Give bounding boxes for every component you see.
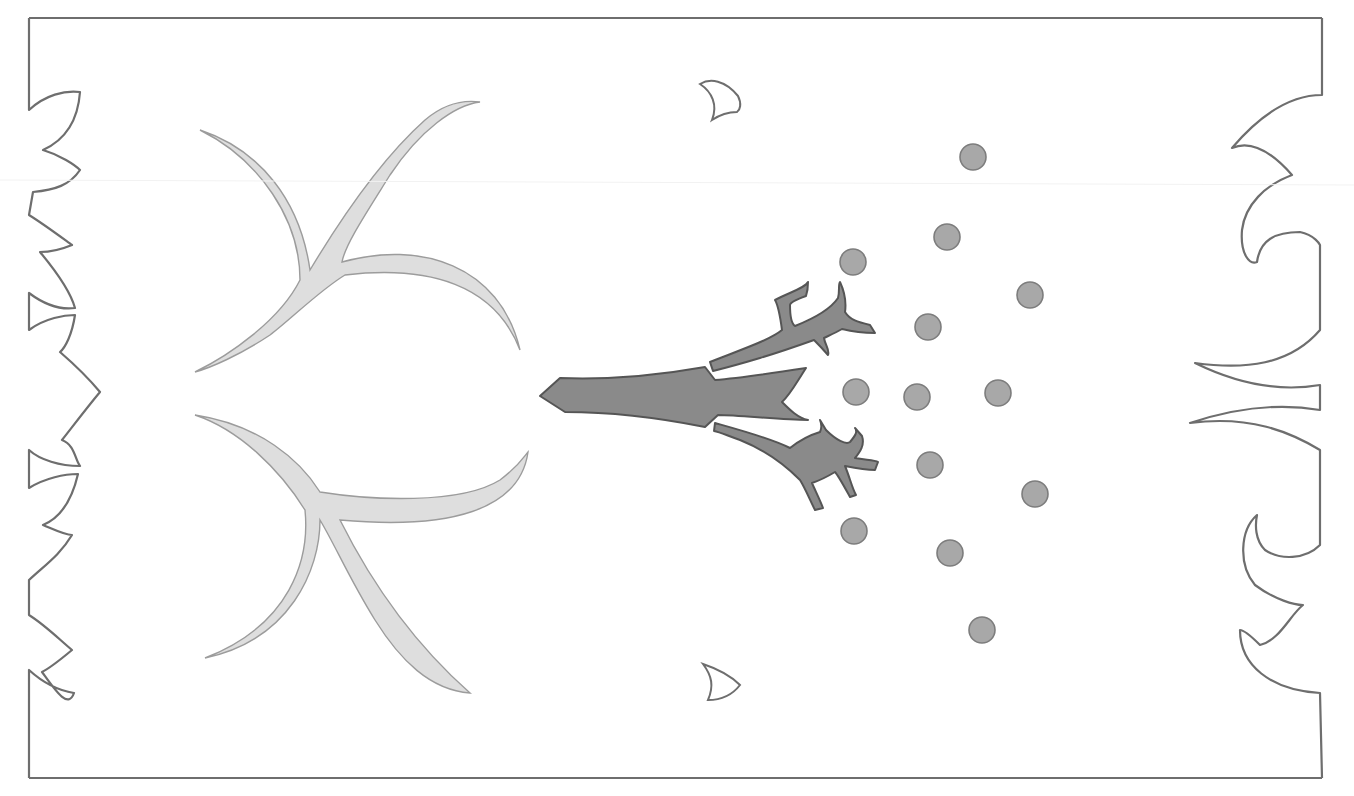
paper-crease xyxy=(0,180,1354,185)
dot xyxy=(843,379,869,405)
dot xyxy=(904,384,930,410)
dot xyxy=(841,518,867,544)
dot xyxy=(985,380,1011,406)
antler-lower xyxy=(195,415,528,693)
dot xyxy=(937,540,963,566)
antler-upper xyxy=(195,101,520,372)
crescent-bottom xyxy=(703,664,740,700)
dot xyxy=(915,314,941,340)
dot xyxy=(917,452,943,478)
trunk-shape xyxy=(540,282,878,510)
dot xyxy=(840,249,866,275)
crescent-top xyxy=(700,81,740,120)
dot xyxy=(1022,481,1048,507)
dot-cluster xyxy=(840,144,1048,643)
dot xyxy=(969,617,995,643)
dot xyxy=(934,224,960,250)
dot xyxy=(1017,282,1043,308)
pattern-artwork xyxy=(0,0,1354,796)
dot xyxy=(960,144,986,170)
